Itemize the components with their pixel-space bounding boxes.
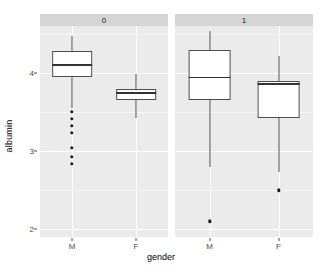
box bbox=[188, 50, 231, 100]
whisker-upper bbox=[136, 74, 137, 89]
median-line bbox=[52, 64, 92, 66]
grid-line-major bbox=[40, 229, 168, 230]
facet-strip-left-label: 0 bbox=[102, 16, 106, 25]
outlier-point bbox=[70, 155, 73, 158]
x-tick-label-f: F bbox=[134, 242, 139, 251]
outlier-point bbox=[70, 131, 73, 134]
x-tick-mark bbox=[278, 238, 279, 241]
grid-line-vertical bbox=[136, 26, 137, 237]
whisker-lower bbox=[209, 100, 210, 166]
outlier-point bbox=[208, 220, 211, 223]
box bbox=[116, 89, 156, 101]
outlier-point bbox=[70, 162, 73, 165]
whisker-upper bbox=[278, 56, 279, 81]
grid-line-minor bbox=[40, 190, 168, 191]
outlier-point bbox=[70, 117, 73, 120]
grid-line-minor bbox=[40, 112, 168, 113]
x-tick-mark bbox=[209, 238, 210, 241]
whisker-upper bbox=[209, 31, 210, 50]
outlier-point bbox=[70, 146, 73, 149]
whisker-lower bbox=[278, 118, 279, 172]
outlier-point bbox=[277, 188, 280, 191]
grid-line-minor bbox=[175, 34, 313, 35]
grid-line-major bbox=[40, 151, 168, 152]
facet-strip-right-label: 1 bbox=[242, 16, 246, 25]
grid-line-minor bbox=[40, 34, 168, 35]
x-tick-label-m: M bbox=[69, 242, 76, 251]
grid-line-minor bbox=[175, 190, 313, 191]
x-tick-label-m: M bbox=[206, 242, 213, 251]
grid-line-major bbox=[175, 151, 313, 152]
x-axis-title: gender bbox=[0, 252, 322, 262]
facet-panel-0 bbox=[40, 26, 168, 237]
x-tick-label-f: F bbox=[276, 242, 281, 251]
median-line bbox=[188, 77, 231, 79]
y-tick-mark-4 bbox=[34, 72, 37, 73]
grid-line-major bbox=[175, 229, 313, 230]
facet-strip-left: 0 bbox=[40, 14, 168, 26]
whisker-lower bbox=[136, 100, 137, 118]
median-line bbox=[257, 83, 300, 85]
whisker-upper bbox=[72, 36, 73, 51]
box bbox=[257, 81, 300, 119]
x-tick-mark bbox=[136, 238, 137, 241]
y-tick-mark-2 bbox=[34, 229, 37, 230]
facet-panel-1 bbox=[175, 26, 313, 237]
boxplot-figure: albumin 4 3 2 0 1 gender MFMF bbox=[0, 0, 322, 272]
outlier-point bbox=[70, 124, 73, 127]
outlier-point bbox=[70, 110, 73, 113]
x-tick-mark bbox=[72, 238, 73, 241]
y-tick-mark-3 bbox=[34, 151, 37, 152]
median-line bbox=[116, 92, 156, 94]
y-axis-title: albumin bbox=[2, 0, 16, 272]
whisker-lower bbox=[72, 77, 73, 108]
facet-strip-right: 1 bbox=[175, 14, 313, 26]
y-axis-ticks: 4 3 2 bbox=[16, 0, 34, 272]
